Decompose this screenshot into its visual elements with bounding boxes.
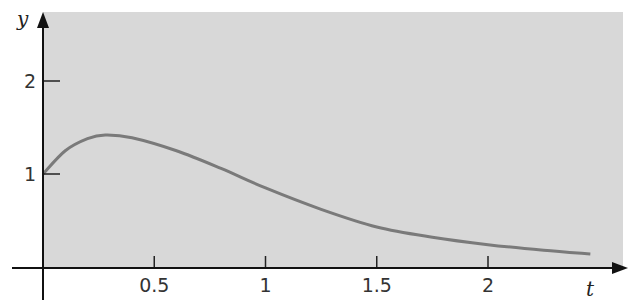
x-tick-label: 1.5	[362, 274, 392, 296]
y-axis-label: y	[16, 7, 29, 31]
plot-background	[43, 12, 623, 268]
y-tick-label: 1	[24, 163, 36, 185]
x-tick-label: 1	[259, 274, 271, 296]
x-axis-label: t	[586, 277, 595, 301]
x-tick-label: 0.5	[139, 274, 169, 296]
chart: 0.511.5212 t y	[0, 0, 635, 306]
x-tick-label: 2	[482, 274, 494, 296]
y-tick-label: 2	[24, 70, 36, 92]
